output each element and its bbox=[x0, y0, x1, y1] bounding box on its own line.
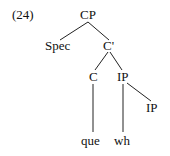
leaf-que: que bbox=[81, 134, 100, 148]
node-spec: Spec bbox=[45, 39, 70, 53]
example-number: (24) bbox=[12, 8, 34, 22]
node-ip-lower: IP bbox=[146, 101, 158, 115]
leaf-wh: wh bbox=[114, 134, 130, 148]
edge-ip-iplower bbox=[127, 83, 151, 101]
node-ip: IP bbox=[117, 70, 129, 84]
node-cp: CP bbox=[80, 8, 96, 22]
edge-cbar-c bbox=[95, 52, 108, 70]
node-c: C bbox=[89, 70, 98, 84]
node-c-bar: C' bbox=[103, 39, 114, 53]
edge-cbar-ip bbox=[110, 52, 122, 70]
